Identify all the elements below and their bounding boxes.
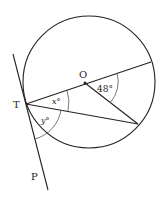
label-angle-x: x°	[52, 97, 61, 106]
label-angle-y: y°	[40, 116, 50, 125]
label-tangent-point-t: T	[13, 99, 20, 110]
circle	[23, 16, 155, 148]
diameter-line	[26, 62, 151, 104]
label-p: P	[31, 171, 38, 182]
center-point	[84, 82, 87, 85]
label-center-o: O	[79, 69, 87, 80]
angle-arc-x	[67, 90, 69, 111]
geometry-diagram: O T P 48° x° y°	[0, 0, 161, 204]
label-angle-48: 48°	[97, 84, 113, 94]
